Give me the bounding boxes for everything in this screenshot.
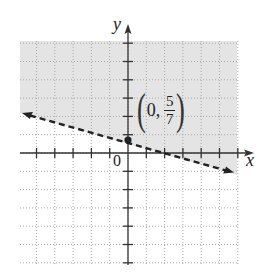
fraction-numerator: 5 — [166, 94, 174, 109]
point-x-value: 0, — [147, 100, 161, 121]
fraction-denominator: 7 — [166, 112, 174, 127]
paren-open: ( — [137, 88, 146, 132]
x-axis-label: x — [246, 150, 254, 171]
y-axis-label: y — [113, 14, 121, 35]
paren-close: ) — [176, 88, 185, 132]
coordinate-plane — [0, 0, 267, 277]
point-label: ( 0, 5 7 ) — [134, 88, 188, 132]
point-y-fraction: 5 7 — [164, 94, 175, 127]
origin-label: 0 — [113, 152, 121, 170]
intercept-point — [124, 136, 131, 143]
